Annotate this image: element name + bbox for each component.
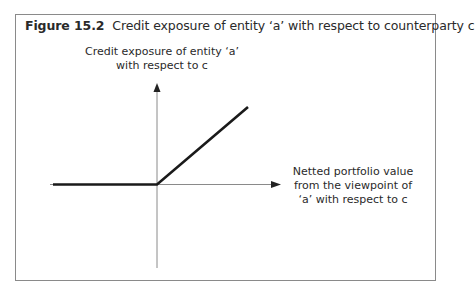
x-axis-arrow-icon — [271, 181, 281, 188]
y-axis-arrow-icon — [154, 83, 161, 92]
exposure-line — [53, 107, 248, 185]
